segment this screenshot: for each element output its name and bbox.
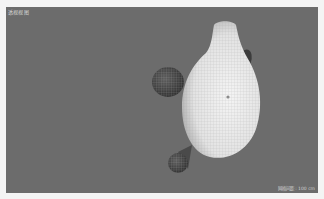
bottom-sphere[interactable] — [168, 145, 192, 173]
left-sphere[interactable] — [152, 67, 184, 97]
viewport-label[interactable]: 透视视图 — [8, 8, 29, 15]
axis-handle-icon[interactable] — [226, 95, 229, 98]
scene-canvas[interactable] — [6, 7, 318, 193]
grid-spacing-status: 网格间距 : 100 cm — [278, 185, 315, 191]
3d-viewport[interactable]: 透视视图 网格间距 : 100 cm — [6, 7, 318, 193]
main-body[interactable] — [182, 21, 260, 158]
